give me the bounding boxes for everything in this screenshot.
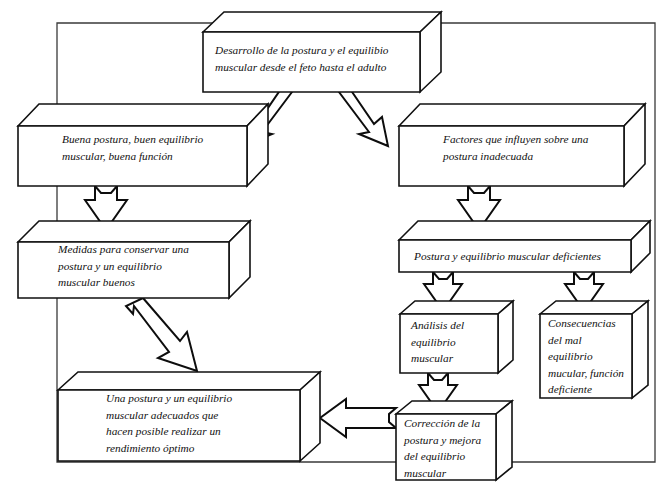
node-development-top (203, 12, 441, 32)
node-correction-top (396, 401, 512, 414)
node-consequences-top (540, 301, 648, 314)
diagram-page: Desarrollo de la postura y el equilibio … (0, 0, 663, 503)
arrow-measures-to-outcome (126, 298, 197, 371)
node-consequences[interactable]: Consecuencias del mal equilibrio mucular… (540, 301, 648, 398)
node-good-posture-top (18, 104, 268, 126)
node-correction[interactable]: Corrección de la postura y mejora del eq… (396, 401, 512, 480)
node-correction-side (496, 401, 512, 480)
flowchart-canvas: Desarrollo de la postura y el equilibio … (0, 0, 663, 503)
arrow-development-to-factors (339, 86, 388, 146)
node-analysis-side (498, 301, 513, 373)
node-deficient[interactable]: Postura y equilibrio muscular deficiente… (399, 221, 650, 272)
node-outcome-top (58, 372, 320, 390)
node-factors-top (399, 104, 645, 126)
arrow-correction-to-outcome (320, 399, 396, 437)
node-analysis-top (400, 301, 513, 314)
node-measures[interactable]: Medidas para conservar una postura y un … (18, 221, 250, 298)
node-good-posture[interactable]: Buena postura, buen equilibrio muscular,… (18, 104, 268, 186)
node-factors[interactable]: Factores que influyen sobre una postura … (399, 104, 645, 186)
node-outcome[interactable]: Una postura y un equilibrio muscular ade… (58, 372, 320, 461)
node-measures-top (18, 221, 250, 242)
node-analysis[interactable]: Análisis del equilibrio muscular (400, 301, 513, 373)
node-deficient-label: Postura y equilibrio muscular deficiente… (413, 250, 602, 262)
node-development[interactable]: Desarrollo de la postura y el equilibio … (203, 12, 441, 92)
node-deficient-top (399, 221, 650, 240)
node-consequences-side (632, 301, 648, 398)
